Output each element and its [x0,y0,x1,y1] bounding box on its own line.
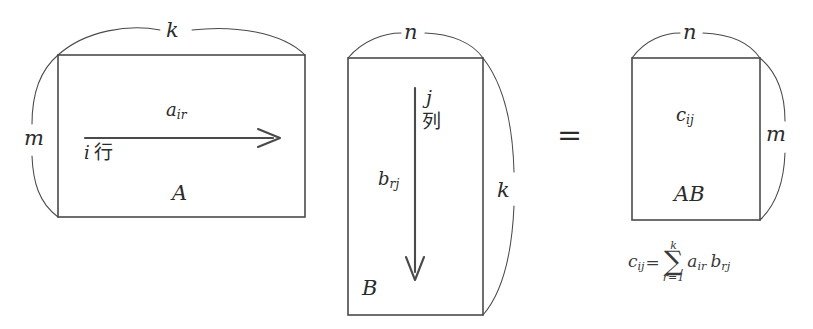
matrix-b-cols-dim-label: n [404,22,418,43]
matrix-c-rows-dim-label: m [766,124,786,145]
matrix-b-entry-label: brj [378,170,399,190]
matrix-a-rows-brace-bottom [32,156,58,217]
formula-sigma-block: k ∑ r=1 [663,240,684,283]
formula-lhs-base: c [628,251,638,271]
formula-lower-limit: r=1 [663,272,684,283]
matrix-a-rows-brace-top [32,55,58,124]
matrix-b-entry-subscript: rj [390,177,400,191]
matrix-c-entry-base: c [676,104,686,125]
summation-formula: cij = k ∑ r=1 air brj [628,240,730,283]
matrix-a-row-word: 行 [94,141,113,163]
matrix-c-rows-brace-top [760,58,785,121]
formula-term-a-subscript: ir [697,259,706,272]
matrix-c-name-label: AB [674,184,705,205]
matrix-c-entry-subscript: ij [686,113,694,127]
matrix-b-cols-brace-right [425,33,483,58]
matrix-a-entry-subscript: ir [177,108,187,122]
formula-term-b-subscript: rj [721,259,730,272]
matrix-c-cols-brace-right [703,33,760,58]
matrix-a-name-label: A [172,183,187,204]
matrix-a-cols-brace-right [192,28,305,55]
matrix-a-rows-dim-label: m [24,128,44,149]
matrix-b-rows-dim-label: k [497,180,510,201]
matrix-a-cols-dim-label: k [166,20,179,41]
matrix-c-rows-brace-bottom [760,153,785,220]
formula-term-a-base: a [687,251,697,271]
formula-equals: = [646,252,660,272]
matrix-b-rows-brace-bottom [483,206,514,315]
formula-lhs: cij [628,251,645,273]
matrix-b-rows-brace-top [483,58,514,172]
sigma-icon: ∑ [664,250,683,272]
matrix-b-cols-brace-left [348,33,401,58]
formula-lhs-subscript: ij [638,259,645,272]
matrix-c-entry-label: cij [676,106,694,126]
formula-term-b: brj [710,251,730,273]
matrix-a-cols-brace-left [58,28,160,55]
equals-operator: = [557,120,582,150]
matrix-b-col-word: 列 [422,112,441,131]
formula-term-b-base: b [710,251,721,271]
formula-term-a: air [687,251,706,273]
matrix-a-entry-label: air [166,101,187,121]
matrix-b-col-index: j [426,88,432,107]
matrix-c-cols-brace-left [632,33,680,58]
matrix-c-cols-dim-label: n [683,22,697,43]
matrix-b-entry-base: b [378,168,390,189]
matrix-a-entry-base: a [166,99,177,120]
matrix-b-name-label: B [362,278,377,299]
matrix-a-row-index: i [84,142,90,163]
matrix-a-row-annotation: i行 [84,143,113,162]
figure-canvas: m k air i行 A n k j 列 brj B = n m cij AB … [0,0,813,329]
